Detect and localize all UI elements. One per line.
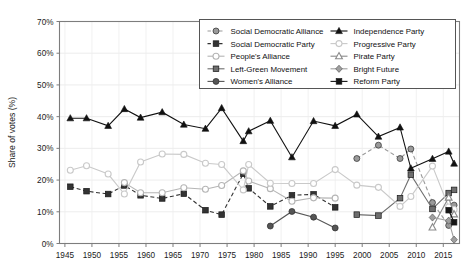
data-point-marker [202,160,208,166]
legend-label: Reform Party [354,77,401,86]
data-point-marker [105,171,111,177]
x-axis-tick-label: 1985 [272,251,291,260]
data-point-marker [159,109,166,115]
y-axis-tick-label: 0% [42,240,54,249]
data-point-marker [202,186,208,192]
data-point-marker [159,151,165,157]
x-axis-tick-label: 1980 [245,251,264,260]
data-point-marker [181,185,187,191]
data-point-marker [68,184,74,190]
legend-label: Pirate Party [354,52,395,61]
data-point-marker [180,121,187,127]
x-axis-tick-label: 2015 [434,251,453,260]
data-point-marker [213,66,219,72]
y-axis-tick-label: 30% [37,144,53,153]
data-point-marker [159,190,165,196]
data-point-marker [451,236,458,243]
data-point-marker [240,187,246,193]
y-axis-tick-label: 50% [37,81,53,90]
data-point-marker [408,146,414,152]
data-point-marker [375,184,381,190]
data-point-marker [289,181,295,187]
series-line [270,211,335,227]
data-point-marker [267,180,273,186]
legend-label: Independence Party [354,27,425,36]
data-point-marker [353,111,360,117]
data-point-marker [332,225,338,231]
data-point-marker [289,154,296,160]
data-point-marker [311,195,317,201]
legend-label: People's Alliance [231,52,291,61]
data-point-marker [354,182,360,188]
data-point-marker [245,128,252,134]
x-axis-tick-label: 1975 [218,251,237,260]
legend-label: Social Democratic Party [231,40,315,49]
data-point-marker [121,180,127,186]
series-line [357,175,454,216]
data-point-marker [332,205,338,211]
y-axis-title: Share of votes (%) [7,97,17,168]
data-point-marker [446,207,452,213]
data-point-marker [159,196,165,202]
x-axis-tick-label: 1960 [137,251,156,260]
data-point-marker [332,167,338,173]
data-point-marker [268,204,274,210]
x-axis-tick-label: 1990 [299,251,318,260]
x-axis-tick-label: 1945 [56,251,75,260]
data-point-marker [408,172,414,178]
data-point-marker [397,124,404,130]
data-point-marker [213,78,219,84]
data-point-marker [336,79,342,85]
y-axis-tick-label: 60% [37,49,53,58]
x-axis-tick-label: 1955 [110,251,129,260]
data-point-marker [451,187,457,193]
y-axis-tick-label: 20% [37,176,53,185]
x-axis-tick-label: 2005 [380,251,399,260]
data-point-marker [203,207,209,213]
data-point-marker [138,159,144,165]
y-axis-tick-label: 70% [37,18,53,27]
data-point-marker [408,194,414,200]
x-axis-tick-label: 2010 [407,251,426,260]
data-point-marker [181,191,187,197]
data-point-marker [67,167,73,173]
data-point-marker [397,195,403,201]
data-point-marker [354,156,360,162]
data-point-marker [451,219,457,225]
data-point-marker [246,162,252,168]
data-point-marker [267,117,274,123]
legend-label: Left-Green Movement [231,65,309,74]
votes-share-line-chart: 0%10%20%30%40%50%60%70%19451950195519601… [0,0,475,271]
data-point-marker [336,41,342,47]
data-point-marker [213,41,219,47]
data-point-marker [429,214,436,221]
data-point-marker [246,178,252,184]
data-point-marker [354,212,360,218]
y-axis-tick-label: 40% [37,113,53,122]
data-point-marker [311,214,317,220]
data-point-marker [310,117,317,123]
data-point-marker [267,223,273,229]
data-point-marker [213,28,219,34]
data-point-marker [121,191,127,197]
x-axis-tick-label: 1970 [191,251,210,260]
legend-label: Bright Future [354,65,400,74]
x-axis-tick-label: 1965 [164,251,183,260]
data-point-marker [84,163,90,169]
data-point-marker [332,195,338,201]
data-point-marker [121,105,128,111]
data-point-marker [376,213,382,219]
data-point-marker [219,212,225,218]
data-point-marker [219,182,225,188]
x-axis-tick-label: 1995 [326,251,345,260]
data-point-marker [429,224,436,230]
legend-label: Progressive Party [354,40,416,49]
data-point-marker [240,168,246,174]
data-point-marker [84,188,90,194]
chart-container: 0%10%20%30%40%50%60%70%19451950195519601… [0,0,475,271]
data-point-marker [429,163,435,169]
data-point-marker [451,160,458,166]
series-line [70,108,454,168]
data-point-marker [181,151,187,157]
data-point-marker [289,208,295,214]
